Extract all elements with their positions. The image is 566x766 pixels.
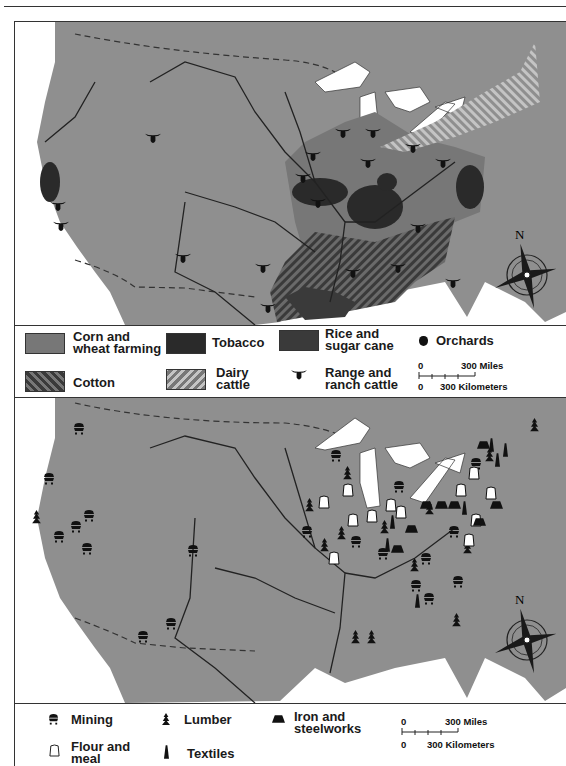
- agriculture-legend: Corn andwheat farming Tobacco Rice andsu…: [14, 325, 566, 398]
- legend-orchards-label: Orchards: [436, 335, 494, 347]
- apple-icon: [419, 336, 428, 346]
- compass-north-label: N: [515, 592, 525, 607]
- top-rule: [4, 6, 566, 7]
- scale-miles-label: 300 Miles: [445, 716, 487, 727]
- rice-sugar-swatch: [279, 330, 319, 351]
- scale-zero-km: 0: [401, 739, 406, 750]
- steer-head-icon: [291, 368, 307, 382]
- legend-corn-wheat-label: Corn andwheat farming: [73, 331, 161, 355]
- industry-map-graphic: N: [15, 398, 566, 703]
- scale-zero-km: 0: [418, 381, 423, 392]
- agriculture-map: N: [14, 21, 566, 326]
- tobacco-region: [40, 162, 60, 202]
- legend-rice-sugar-label: Rice andsugar cane: [325, 328, 394, 352]
- scale-zero-miles: 0: [401, 716, 406, 727]
- compass-north-label: N: [515, 227, 525, 242]
- tobacco-region: [377, 173, 397, 191]
- corn-wheat-swatch: [25, 333, 65, 354]
- tobacco-region: [456, 165, 484, 209]
- pine-tree-icon: [162, 713, 170, 726]
- legend-cotton-label: Cotton: [73, 377, 115, 389]
- furnace-icon: [272, 715, 285, 723]
- legend-mining-label: Mining: [71, 714, 113, 726]
- dairy-hatch-swatch: [166, 369, 206, 390]
- legend-dairy-label: Dairycattle: [216, 367, 250, 391]
- legend-flour-label: Flour andmeal: [71, 741, 130, 765]
- spindle-icon: [164, 745, 169, 759]
- scale-bar-graphic: [401, 728, 461, 736]
- scale-zero-miles: 0: [418, 360, 423, 371]
- legend-iron-steel-label: Iron andsteelworks: [294, 711, 361, 735]
- scale-bar-graphic: [418, 372, 478, 380]
- agriculture-map-graphic: N: [15, 22, 566, 325]
- legend-textiles-label: Textiles: [187, 748, 234, 760]
- industry-map: N: [14, 397, 566, 704]
- legend-range-cattle-label: Range andranch cattle: [325, 367, 398, 391]
- tobacco-swatch: [166, 333, 206, 354]
- scale-miles-label: 300 Miles: [461, 360, 503, 371]
- scale-km-label: 300 Kilometers: [440, 381, 508, 392]
- flour-sack-icon: [49, 744, 60, 757]
- mine-cart-icon: [48, 714, 59, 725]
- scale-km-label: 300 Kilometers: [427, 739, 495, 750]
- industry-legend: Mining Lumber Iron andsteelworks Flour a…: [14, 703, 566, 766]
- legend-lumber-label: Lumber: [184, 714, 232, 726]
- cotton-hatch-swatch: [25, 371, 65, 392]
- legend-tobacco-label: Tobacco: [212, 337, 265, 349]
